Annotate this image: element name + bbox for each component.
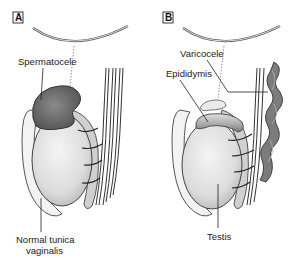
testis-b — [182, 121, 242, 209]
label-spermatocele: Spermatocele — [18, 56, 77, 67]
label-testis: Testis — [207, 231, 232, 242]
panel-b-letter: B — [165, 12, 172, 23]
dotted-line-a — [70, 46, 74, 88]
skin-curve-a — [33, 26, 128, 41]
label-tunica-line2: vaginalis — [26, 245, 63, 256]
spermatic-cord-a — [96, 68, 123, 205]
spermatic-cord-b — [247, 68, 264, 205]
spermatocele-mass — [33, 86, 81, 130]
skin-curve-b — [183, 26, 280, 41]
panel-a: A Spermatocele — [13, 12, 128, 256]
label-tunica-line1: Normal tunica — [16, 234, 75, 245]
panel-b: B Varicocele — [163, 12, 283, 242]
label-epididymis: Epididymis — [166, 68, 212, 79]
label-varicocele: Varicocele — [180, 48, 224, 59]
panel-a-letter: A — [15, 12, 22, 23]
anatomy-diagram: A Spermatocele — [0, 0, 299, 259]
